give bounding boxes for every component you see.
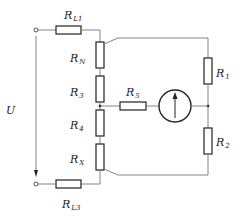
label-r4: R4 — [69, 119, 84, 133]
resistor-r3 — [96, 76, 104, 102]
label-r5: R5 — [125, 86, 140, 100]
resistor-rn — [96, 42, 104, 68]
label-voltage-u: U — [6, 104, 16, 117]
resistor-r2 — [204, 128, 212, 154]
label-r3: R3 — [69, 86, 84, 100]
resistor-r1 — [204, 58, 212, 84]
wire — [104, 38, 118, 44]
label-rn: RN — [69, 52, 86, 66]
top-terminal — [34, 28, 38, 32]
label-r1: R1 — [215, 67, 230, 81]
circuit-diagram: RL1 RN R3 R4 RX RL3 R5 R1 R2 U — [0, 0, 242, 218]
label-rl1: RL1 — [63, 9, 82, 23]
label-r2: R2 — [215, 136, 230, 150]
resistor-rx — [96, 144, 104, 170]
resistor-rl3 — [56, 180, 81, 188]
bottom-terminal — [34, 182, 38, 186]
resistor-r5 — [120, 102, 146, 110]
label-rl3: RL3 — [61, 198, 81, 212]
label-rx: RX — [69, 153, 85, 167]
wire — [104, 169, 118, 175]
resistor-r4 — [96, 110, 104, 136]
resistor-rl1 — [56, 26, 81, 34]
voltage-arrow-head — [34, 170, 38, 177]
